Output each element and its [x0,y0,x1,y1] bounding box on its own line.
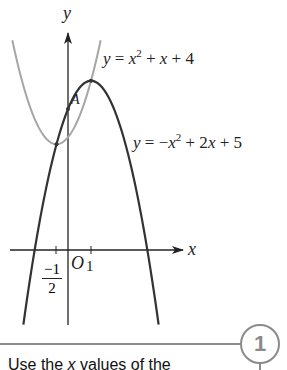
graph-figure: y x O 1 −1 2 A y = x2 + x + 4 y = −x2 + … [0,0,287,330]
point-marker [55,142,59,146]
section-divider [0,343,241,345]
equation-label-upward: y = x2 + x + 4 [103,49,194,69]
step-number-badge: 1 [240,324,280,364]
eq-var: x [168,133,176,152]
intersection-points [55,79,94,146]
eq-op: + 2 [181,133,208,152]
eq-lhs: y [103,49,111,68]
x-tick-label-neg-half: −1 2 [42,262,62,296]
hint-text: Use the x values of the [8,356,171,370]
eq-sign: = − [141,133,169,152]
point-a-label: A [71,92,80,108]
origin-label: O [71,253,84,274]
hint-text-post: values of the [76,356,171,370]
point-marker [66,107,70,111]
fraction-denominator: 2 [42,279,62,296]
eq-sign: = [111,49,129,68]
eq-lhs: y [133,133,141,152]
x-tick-label-one: 1 [86,258,94,275]
eq-op: + [142,49,160,68]
equation-label-downward: y = −x2 + 2x + 5 [133,133,242,153]
hint-variable: x [68,356,76,370]
hint-text-pre: Use the [8,356,68,370]
y-axis-label: y [63,3,71,24]
x-axis-label: x [188,239,196,260]
fraction-numerator: −1 [42,262,62,279]
step-connector [259,362,261,370]
eq-const: + 5 [215,133,242,152]
parabola-upward-curve [12,40,100,144]
eq-const: + 4 [167,49,194,68]
point-marker [89,79,93,83]
